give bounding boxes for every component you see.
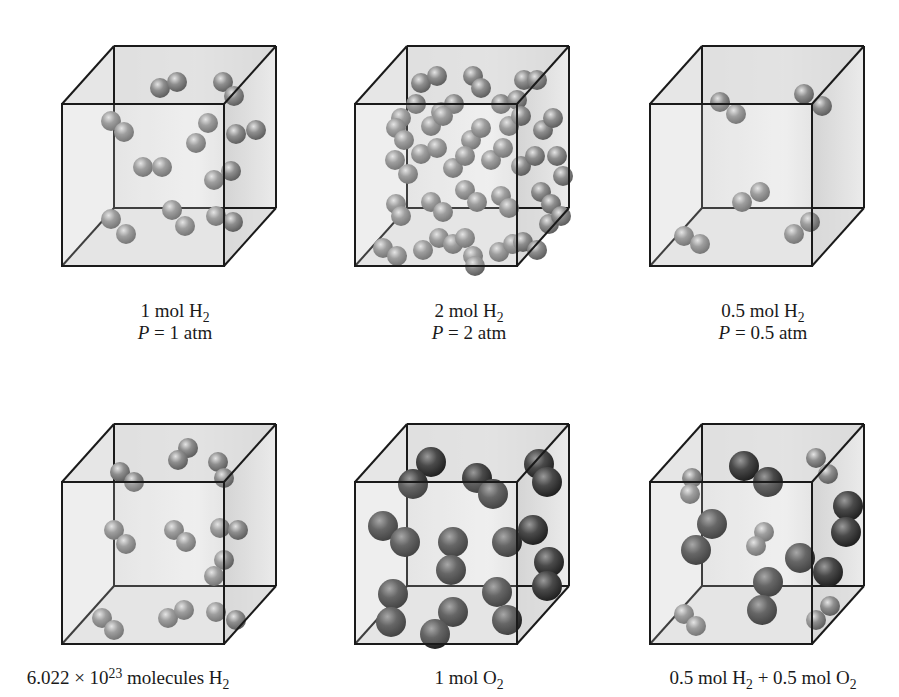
h2-atom: [525, 146, 545, 166]
o2-atom: [813, 557, 843, 587]
pressure-variable: P: [138, 322, 150, 343]
label-line-2: P = 1 atm: [25, 322, 325, 344]
label-line-1: 0.5 mol H2 + 0.5 mol O2: [613, 667, 899, 689]
pressure-variable: P: [719, 322, 731, 343]
h2-atom: [226, 124, 246, 144]
label-sub: 2: [223, 677, 230, 692]
label-sub: 2: [746, 677, 753, 692]
gas-container-cube: [62, 424, 286, 654]
label-pre: 0.5 mol H: [721, 300, 798, 321]
label-pre: 6.022 × 10: [27, 667, 109, 688]
pressure-value: = 0.5 atm: [730, 322, 807, 343]
label-sup: 23: [109, 666, 123, 681]
pressure-value: = 1 atm: [149, 322, 212, 343]
panel-label-1mol-o2: 1 mol O2: [319, 667, 619, 689]
h2-atom: [224, 86, 244, 106]
label-line-1: 2 mol H2: [319, 300, 619, 322]
pressure-variable: P: [432, 322, 444, 343]
o2-atom: [532, 467, 562, 497]
label-pre: 0.5 mol H: [670, 667, 747, 688]
cube-panel-1mol-o2: [355, 424, 579, 654]
panel-label-0.5mol-h2: 0.5 mol H2P = 0.5 atm: [613, 300, 899, 344]
label-pre: 2 mol H: [434, 300, 496, 321]
h2-atom: [223, 212, 243, 232]
h2-atom: [226, 610, 246, 630]
h2-atom: [543, 108, 563, 128]
label-pre: 1 mol O: [434, 667, 496, 688]
gas-container-cube: [355, 46, 579, 276]
cube-panel-0.5mol-h2: [650, 46, 874, 276]
gas-container-cube: [650, 424, 874, 654]
gas-container-cube: [62, 46, 286, 276]
label-post: molecules H: [122, 667, 222, 688]
h2-atom: [150, 78, 170, 98]
gas-container-cube: [355, 424, 579, 654]
h2-atom: [427, 66, 447, 86]
cube-panel-molecules-h2: [62, 424, 286, 654]
h2-atom: [794, 84, 814, 104]
label-line-2: P = 0.5 atm: [613, 322, 899, 344]
label-line-1: 6.022 × 1023 molecules H2: [0, 667, 278, 689]
h2-atom: [246, 120, 266, 140]
label-sub2: 2: [850, 677, 857, 692]
label-line-1: 0.5 mol H2: [613, 300, 899, 322]
label-mid: + 0.5 mol O: [753, 667, 850, 688]
cube-panel-mixture: [650, 424, 874, 654]
label-line-1: 1 mol O2: [319, 667, 619, 689]
h2-atom: [806, 448, 826, 468]
label-pre: 1 mol H: [140, 300, 202, 321]
cube-panel-2mol-h2: [355, 46, 579, 276]
h2-atom: [547, 146, 567, 166]
cube-panel-1mol-h2: [62, 46, 286, 276]
panel-label-1mol-h2: 1 mol H2P = 1 atm: [25, 300, 325, 344]
label-line-2: P = 2 atm: [319, 322, 619, 344]
o2-atom: [831, 517, 861, 547]
o2-atom: [518, 515, 548, 545]
h2-atom: [818, 464, 838, 484]
pressure-value: = 2 atm: [443, 322, 506, 343]
gas-container-cube: [650, 46, 874, 276]
h2-atom: [228, 520, 248, 540]
label-line-1: 1 mol H2: [25, 300, 325, 322]
h2-atom: [168, 450, 188, 470]
panel-label-2mol-h2: 2 mol H2P = 2 atm: [319, 300, 619, 344]
h2-atom: [812, 96, 832, 116]
h2-atom: [167, 72, 187, 92]
panel-label-mixture: 0.5 mol H2 + 0.5 mol O2: [613, 667, 899, 689]
panel-label-molecules-h2: 6.022 × 1023 molecules H2: [0, 667, 278, 689]
o2-atom: [833, 491, 863, 521]
o2-atom: [532, 571, 562, 601]
h2-atom: [471, 78, 491, 98]
label-sub: 2: [497, 677, 504, 692]
